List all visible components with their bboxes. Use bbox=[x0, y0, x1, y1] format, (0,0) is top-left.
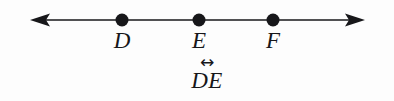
line-de-notation: ↔ DE bbox=[165, 56, 249, 93]
line-diagram: D E F ↔ DE bbox=[0, 0, 394, 101]
point-dot-f bbox=[267, 14, 280, 27]
point-label-d: D bbox=[102, 29, 142, 52]
point-label-e: E bbox=[179, 29, 219, 52]
point-dot-e bbox=[193, 14, 206, 27]
line-de-label: DE bbox=[165, 69, 249, 93]
point-dot-d bbox=[116, 14, 129, 27]
point-label-f: F bbox=[253, 29, 293, 52]
